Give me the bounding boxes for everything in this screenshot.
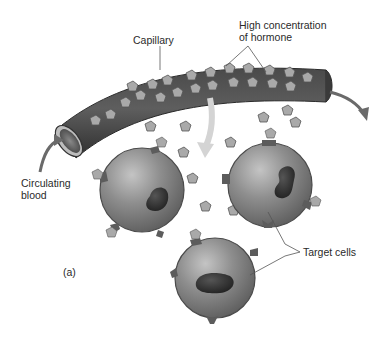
- high-concentration-label-line2: of hormone: [239, 31, 292, 43]
- circulating-blood-label-line2: blood: [21, 189, 47, 201]
- hormone-diagram: Capillary High concentration of hormone …: [0, 0, 385, 343]
- diagram-canvas: [0, 0, 385, 343]
- target-cell-left: [92, 137, 184, 238]
- target-cell-bottom: [170, 229, 258, 324]
- panel-label: (a): [63, 266, 76, 278]
- diffusion-arrow: [197, 98, 214, 158]
- nucleus: [196, 273, 234, 293]
- high-concentration-label-line1: High concentration: [239, 19, 327, 31]
- circulating-blood-label-line1: Circulating: [21, 177, 71, 189]
- target-cells-label: Target cells: [303, 246, 356, 258]
- capillary-label: Capillary: [133, 34, 174, 46]
